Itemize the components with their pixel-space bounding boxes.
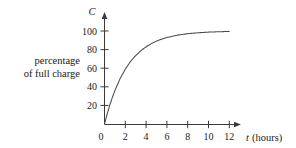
origin-label: 0	[99, 131, 104, 142]
x-axis-label: t	[246, 132, 250, 143]
y-tick-label-100: 100	[82, 26, 97, 37]
x-tick-label-10: 10	[204, 131, 214, 142]
y-axis-tick-labels: 100 80 60 40 20	[82, 26, 97, 111]
x-tick-label-2: 2	[123, 131, 128, 142]
y-tick-label-20: 20	[87, 100, 97, 111]
y-tick-label-60: 60	[87, 63, 97, 74]
charge-curve	[105, 31, 230, 124]
x-tick-label-4: 4	[144, 131, 149, 142]
x-tick-label-8: 8	[185, 131, 190, 142]
figure-container: percentage of full charge 100 80 60 40	[0, 0, 296, 148]
chart-plot: 100 80 60 40 20 2 4 6 8 10 12 0 C t	[0, 0, 296, 148]
y-tick-label-80: 80	[87, 44, 97, 55]
x-axis-unit-label: (hours)	[252, 132, 283, 144]
x-axis-tick-labels: 2 4 6 8 10 12	[123, 131, 235, 142]
y-tick-label-40: 40	[87, 81, 97, 92]
y-axis-label: C	[88, 6, 96, 17]
x-tick-label-12: 12	[224, 131, 234, 142]
x-tick-label-6: 6	[164, 131, 169, 142]
